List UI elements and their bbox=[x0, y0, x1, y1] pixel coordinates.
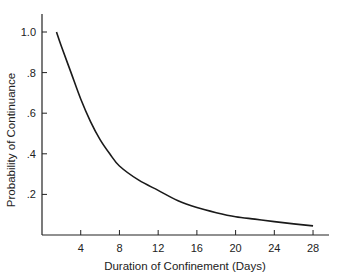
x-tick-label: 28 bbox=[307, 242, 319, 254]
y-tick-label: .6 bbox=[27, 107, 36, 119]
x-tick-label: 4 bbox=[78, 242, 84, 254]
x-tick-label: 12 bbox=[152, 242, 164, 254]
chart: 481216202428 .2.4.6.81.0 Duration of Con… bbox=[0, 0, 344, 280]
y-tick-label: .4 bbox=[27, 148, 36, 160]
y-tick-label: 1.0 bbox=[21, 26, 36, 38]
x-tick-label: 8 bbox=[116, 242, 122, 254]
y-axis-title: Probability of Continuance bbox=[5, 73, 17, 207]
x-axis-title: Duration of Confinement (Days) bbox=[104, 260, 266, 272]
y-tick-label: .2 bbox=[27, 188, 36, 200]
x-tick-label: 16 bbox=[191, 242, 203, 254]
y-ticks: .2.4.6.81.0 bbox=[21, 26, 47, 200]
y-tick-label: .8 bbox=[27, 67, 36, 79]
x-ticks: 481216202428 bbox=[78, 230, 320, 254]
axes bbox=[42, 14, 329, 235]
data-line bbox=[57, 32, 314, 226]
x-tick-label: 24 bbox=[268, 242, 280, 254]
x-tick-label: 20 bbox=[229, 242, 241, 254]
